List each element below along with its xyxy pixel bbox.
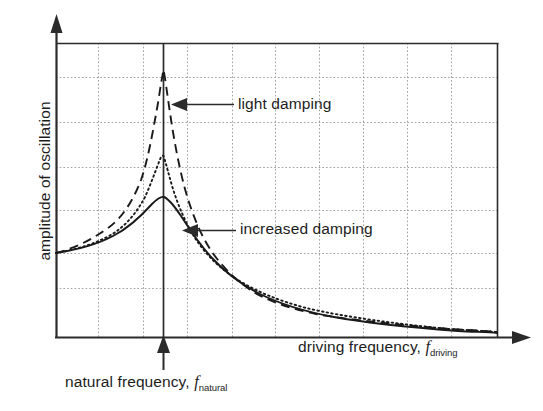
- resonance-curve-figure: amplitude of oscillation: [0, 0, 543, 411]
- x-axis-label-text: driving frequency,: [298, 338, 425, 355]
- plot-canvas: [0, 0, 543, 411]
- arrow-natural-frequency: [157, 335, 170, 370]
- x-axis-label-subscript: driving: [430, 347, 457, 358]
- annotation-light-damping: light damping: [238, 95, 332, 113]
- plot-frame: [56, 43, 499, 337]
- y-axis: [51, 14, 63, 338]
- x-axis: [55, 331, 531, 344]
- x-axis-arrowhead: [512, 331, 531, 344]
- annotation-increased-damping: increased damping: [240, 220, 373, 238]
- natural-frequency-subscript: natural: [199, 382, 227, 393]
- y-axis-arrowhead: [51, 14, 63, 33]
- natural-frequency-label: natural frequency, fnatural: [65, 372, 227, 393]
- grid-lines: [56, 43, 498, 337]
- arrowhead-light-damping: [171, 98, 187, 111]
- arrow-light-damping: [171, 98, 234, 111]
- arrowhead-increased-damping: [182, 224, 198, 237]
- arrow-increased-damping: [182, 224, 236, 237]
- curve-moderate-damping: [56, 156, 497, 332]
- natural-frequency-text: natural frequency,: [65, 373, 194, 390]
- x-axis-label: driving frequency, fdriving: [298, 337, 457, 358]
- curve-increased-damping: [56, 197, 497, 333]
